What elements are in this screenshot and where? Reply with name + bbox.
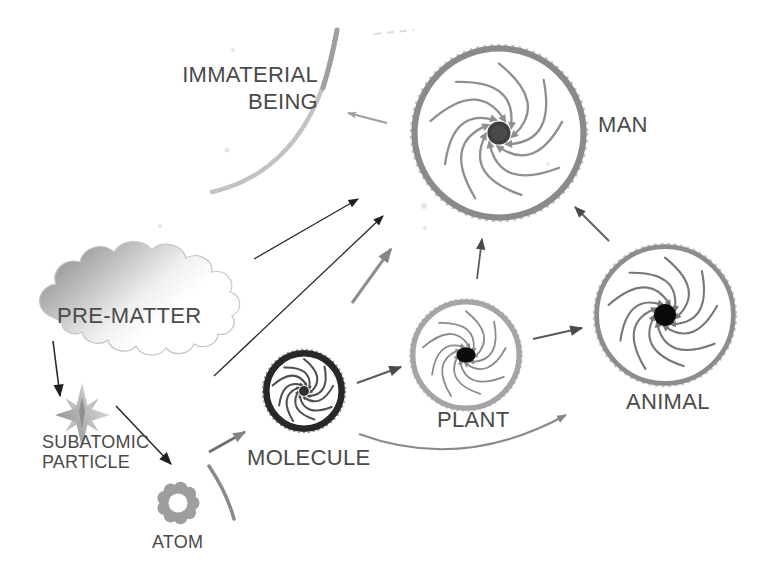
label-molecule: MOLECULE — [247, 445, 370, 472]
molecule-vortex-icon — [263, 350, 346, 433]
arrow-plant-to-animal — [533, 328, 582, 339]
arrow-atom-to-molecule — [209, 432, 245, 452]
label-plant: PLANT — [437, 407, 509, 434]
label-subatomic-particle-line1: SUBATOMIC — [42, 432, 149, 452]
plant-vortex-icon — [410, 299, 522, 411]
arrow-plant-to-man — [477, 239, 482, 279]
faint-scan-dashes — [374, 30, 414, 34]
arrow-animal-to-man — [575, 207, 609, 241]
label-immaterial-being: IMMATERIAL BEING — [182, 62, 318, 116]
arrow-prematter-to-immaterial — [254, 199, 358, 259]
arrow-gray-to-man — [352, 249, 391, 303]
curved-stroke-near-atom — [209, 466, 234, 519]
pre-matter-cloud — [40, 242, 240, 356]
label-pre-matter: PRE-MATTER — [57, 303, 201, 330]
label-immaterial-being-line1: IMMATERIAL — [182, 62, 318, 89]
label-animal: ANIMAL — [626, 389, 710, 416]
label-man: MAN — [598, 112, 648, 139]
label-immaterial-being-line2: BEING — [182, 89, 318, 116]
arrow-man-to-immaterial — [348, 113, 387, 123]
atom-icon — [157, 482, 199, 525]
arrow-molecule-to-plant — [357, 367, 401, 383]
label-subatomic-particle: SUBATOMIC PARTICLE — [42, 432, 149, 472]
arrow-prematter-to-particle — [53, 341, 60, 396]
animal-vortex-icon — [594, 244, 737, 387]
scanned-diagram-page: IMMATERIAL BEING MAN PRE-MATTER SUBATOMI… — [0, 0, 774, 581]
man-vortex-icon — [411, 45, 587, 221]
diagram-canvas — [0, 0, 774, 581]
label-atom: ATOM — [152, 532, 203, 552]
label-subatomic-particle-line2: PARTICLE — [42, 452, 149, 472]
